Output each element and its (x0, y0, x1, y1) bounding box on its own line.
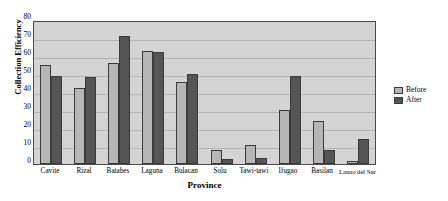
plot-area (33, 21, 376, 165)
bar-after (324, 150, 335, 164)
y-axis-tick-labels: 01020304050607080 (17, 17, 31, 165)
legend: BeforeAfter (394, 86, 426, 106)
bar-group (239, 22, 273, 164)
x-tick-label: Ifugao (271, 167, 305, 176)
x-tick-label: Batabes (101, 167, 135, 176)
bar-after (51, 76, 62, 164)
x-tick-label: Solu (203, 167, 237, 176)
bar-group (102, 22, 136, 164)
bar-after (222, 159, 233, 164)
bar-group (170, 22, 204, 164)
bar-after (85, 77, 96, 164)
bar-before (142, 51, 153, 164)
bar-before (347, 161, 358, 164)
y-tick-label: 0 (27, 157, 31, 165)
bar-after (187, 74, 198, 164)
bar-before (245, 145, 256, 164)
bar-before (74, 88, 85, 165)
bar-group (136, 22, 170, 164)
legend-swatch-before (394, 87, 403, 94)
x-tick-label: Basilan (305, 167, 339, 176)
legend-item: Before (394, 86, 426, 94)
bar-before (313, 121, 324, 164)
bar-group (273, 22, 307, 164)
bar-group (307, 22, 341, 164)
legend-label: Before (406, 86, 426, 94)
bar-after (153, 52, 164, 164)
bar-group (341, 22, 375, 164)
y-tick-label: 30 (24, 103, 32, 111)
x-tick-label: Tawi-tawi (237, 167, 271, 176)
bar-before (211, 150, 222, 164)
x-tick-label: Rizal (67, 167, 101, 176)
x-tick-label: Bulacan (169, 167, 203, 176)
x-tick-label: Cavite (33, 167, 67, 176)
bar-before (279, 110, 290, 164)
bar-before (40, 65, 51, 164)
bar-after (358, 139, 369, 164)
bar-group (204, 22, 238, 164)
bar-before (176, 82, 187, 164)
y-tick-label: 20 (24, 121, 32, 129)
bar-after (119, 36, 130, 164)
legend-label: After (406, 96, 422, 104)
bar-after (256, 158, 267, 164)
x-tick-label: Lanao del Sur (339, 167, 376, 176)
y-tick-label: 10 (24, 139, 32, 147)
x-tick-label: Laguna (135, 167, 169, 176)
x-axis-title: Province (33, 180, 376, 190)
bar-before (108, 63, 119, 164)
legend-swatch-after (394, 97, 403, 104)
bar-after (290, 76, 301, 164)
bar-groups (34, 22, 375, 164)
y-tick-label: 50 (24, 67, 32, 75)
y-tick-label: 40 (24, 85, 32, 93)
bar-group (34, 22, 68, 164)
x-axis-tick-labels: CaviteRizalBatabesLagunaBulacanSoluTawi-… (33, 167, 376, 176)
bar-group (68, 22, 102, 164)
legend-item: After (394, 96, 426, 104)
y-tick-label: 70 (24, 31, 32, 39)
y-tick-label: 60 (24, 49, 32, 57)
bar-chart: Collection Efficiency 01020304050607080 … (0, 0, 448, 201)
y-tick-label: 80 (24, 13, 32, 21)
